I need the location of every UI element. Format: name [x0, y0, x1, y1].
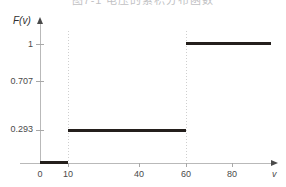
- plot-area: F(v) 1 0.707 0.293 0 10 40 60 80 v: [0, 9, 286, 187]
- y-tick-label-0707: 0.707: [10, 76, 33, 86]
- y-tick-0293: [36, 130, 44, 131]
- x-tick-label-60: 60: [181, 169, 191, 179]
- y-tick-label-0293: 0.293: [10, 124, 33, 134]
- x-tick-80: [232, 163, 233, 167]
- y-tick-label-group: 1 0.707 0.293: [0, 9, 33, 187]
- chart-title: 图7-1 电压的累积分布函数: [72, 0, 215, 7]
- chart-title-strip: 图7-1 电压的累积分布函数: [0, 0, 286, 9]
- y-tick-0707: [36, 81, 44, 82]
- x-tick-40: [139, 163, 140, 167]
- x-axis-label: v: [272, 169, 277, 179]
- step-segment-0: [40, 161, 68, 164]
- x-tick-label-10: 10: [63, 169, 73, 179]
- cdf-step-chart-figure: 图7-1 电压的累积分布函数 F(v) 1 0.707 0.293 0 10 4…: [0, 0, 286, 187]
- x-axis-arrow-icon: [271, 160, 278, 166]
- y-tick-label-1: 1: [28, 39, 33, 49]
- y-axis-arrow-icon: [37, 17, 43, 24]
- x-tick-label-0: 0: [37, 169, 42, 179]
- gridline-x-60: [186, 31, 187, 164]
- gridline-x-10: [68, 31, 69, 164]
- x-tick-60: [186, 163, 187, 167]
- y-tick-1: [36, 44, 44, 45]
- x-tick-label-40: 40: [134, 169, 144, 179]
- step-segment-1: [186, 42, 271, 45]
- step-segment-0293: [68, 129, 186, 132]
- x-tick-label-80: 80: [227, 169, 237, 179]
- x-tick-10: [68, 163, 69, 167]
